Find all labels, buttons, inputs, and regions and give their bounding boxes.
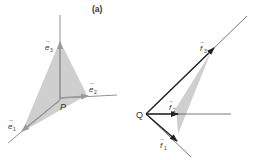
label-e2: e 2 →	[89, 80, 97, 95]
svg-text:3: 3	[204, 48, 207, 54]
left-frame	[8, 15, 117, 143]
label-f1: f 1 →	[159, 136, 167, 151]
svg-text:1: 1	[164, 145, 167, 151]
svg-text:→: →	[89, 80, 95, 86]
svg-text:2: 2	[173, 107, 176, 113]
origin-label-p: P	[60, 102, 66, 112]
svg-text:1: 1	[13, 126, 16, 132]
svg-text:2: 2	[94, 89, 97, 95]
svg-text:→: →	[159, 136, 165, 142]
svg-text:f: f	[160, 141, 163, 150]
label-f2: f 2 →	[168, 98, 176, 113]
label-e1: e 1 →	[8, 117, 16, 132]
svg-text:→: →	[199, 39, 205, 45]
svg-text:→: →	[168, 98, 174, 104]
svg-text:→: →	[45, 38, 51, 44]
svg-text:→: →	[8, 117, 14, 123]
origin-label-q: Q	[136, 110, 143, 120]
shaded-sliver-f	[176, 52, 211, 134]
shaded-triangle-e	[22, 41, 87, 132]
label-e3: e 3 →	[45, 38, 53, 53]
svg-text:3: 3	[50, 47, 53, 53]
panel-label: (a)	[92, 4, 103, 14]
diagram-canvas: (a) e 3 → e 2 → e 1 → P f 3 → f 2 → f 1 …	[0, 0, 253, 160]
svg-text:f: f	[169, 103, 172, 112]
svg-text:f: f	[200, 44, 203, 53]
label-f3: f 3 →	[199, 39, 207, 54]
